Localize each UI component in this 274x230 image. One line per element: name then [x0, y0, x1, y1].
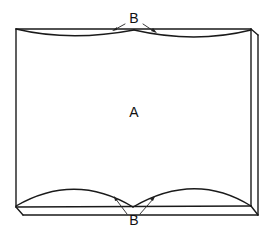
label-a: A	[129, 105, 138, 119]
label-b-top: B	[129, 11, 138, 25]
bottom-left-depth-edge	[16, 207, 23, 215]
bottom-right-curve	[133, 189, 251, 207]
side-faces	[16, 29, 258, 215]
bottom-right-depth-edge	[251, 206, 258, 215]
label-b-bottom: B	[129, 213, 138, 227]
top-right-depth-edge	[251, 29, 258, 35]
